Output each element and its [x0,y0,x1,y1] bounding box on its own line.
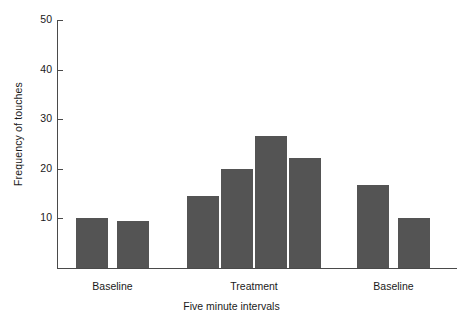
bar [76,218,108,268]
bar [187,196,219,268]
y-axis-tick-label: 20 [20,163,52,175]
bar [255,136,287,268]
bar [357,185,389,268]
y-axis-tick-label: 30 [20,113,52,125]
x-axis-label-text: Five minute intervals [183,300,279,312]
y-axis-tick-label: 40 [20,64,52,76]
y-axis-tick-label-text: 10 [24,212,52,223]
phase-label-0: Baseline [53,280,173,292]
phase-label-1: Treatment [194,280,314,292]
bar-chart: Frequency of touches 1020304050 Baseline… [0,0,463,322]
x-axis-label: Five minute intervals [0,300,463,312]
bars-layer [57,20,457,268]
y-axis-tick-label-text: 20 [24,163,52,174]
y-axis-tick-label: 50 [20,14,52,26]
phase-label-2: Baseline [334,280,454,292]
bar [289,158,321,268]
y-axis-tick-label-text: 40 [24,64,52,75]
y-axis-label: Frequency of touches [8,0,28,268]
x-axis-line [57,268,457,269]
y-axis-tick-label-text: 50 [24,14,52,25]
bar [221,169,253,269]
y-axis-tick-label: 10 [20,212,52,224]
bar [117,221,149,268]
y-axis-tick-label-text: 30 [24,113,52,124]
bar [398,218,430,268]
